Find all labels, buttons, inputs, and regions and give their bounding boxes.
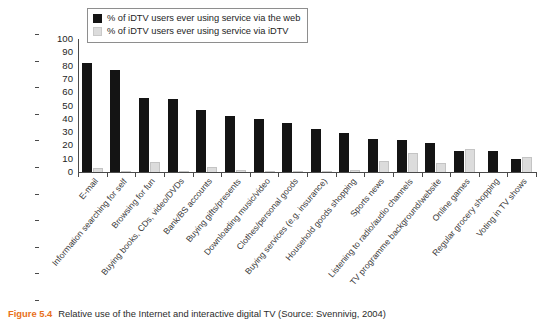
bar-idtv — [322, 171, 332, 172]
bar-idtv — [293, 171, 303, 172]
bar-web — [254, 119, 264, 172]
bar-web — [82, 63, 92, 172]
x-tick-mark — [78, 173, 79, 177]
bar-idtv — [408, 153, 418, 172]
bar-idtv — [465, 149, 475, 172]
bar-group — [507, 157, 536, 172]
legend-swatch-web — [93, 14, 102, 23]
x-tick-mark — [135, 173, 136, 177]
y-tick-label: 40 — [39, 114, 78, 124]
y-tick-mark — [35, 114, 39, 115]
x-tick-label: E-mail — [77, 177, 100, 201]
figure-number: Figure 5.4 — [8, 308, 52, 319]
y-tick-label: 30 — [39, 127, 78, 137]
bar-idtv — [150, 162, 160, 172]
x-tick-mark — [307, 173, 308, 177]
y-tick-label: 90 — [39, 47, 78, 57]
y-tick-mark — [35, 167, 39, 168]
bar-group — [307, 129, 336, 172]
bar-web — [339, 133, 349, 172]
x-tick-mark — [393, 173, 394, 177]
x-tick-mark — [479, 173, 480, 177]
bar-group — [393, 140, 422, 172]
legend-label-web: % of iDTV users ever using service via t… — [107, 13, 300, 24]
x-tick-mark — [336, 173, 337, 177]
figure-container: % of iDTV users ever using service via t… — [0, 0, 554, 321]
y-tick-mark — [35, 34, 39, 35]
y-tick-mark — [35, 140, 39, 141]
bar-web — [311, 129, 321, 172]
x-axis-labels: E-mailInformation searching for selfBrow… — [0, 173, 554, 293]
y-tick-label: 20 — [39, 140, 78, 150]
x-tick-mark — [164, 173, 165, 177]
bar-idtv — [93, 168, 103, 172]
bar-group — [221, 116, 250, 172]
bar-idtv — [236, 170, 246, 172]
bar-web — [282, 123, 292, 172]
y-tick-label: 80 — [39, 61, 78, 71]
bar-idtv — [379, 161, 389, 172]
y-tick-label: 70 — [39, 74, 78, 84]
figure-caption-text: Relative use of the Internet and interac… — [58, 308, 386, 319]
legend-swatch-idtv — [93, 27, 102, 36]
x-tick-mark — [107, 173, 108, 177]
legend-entry-web: % of iDTV users ever using service via t… — [93, 12, 300, 25]
x-tick-mark — [422, 173, 423, 177]
bar-web — [397, 140, 407, 172]
y-tick-label: 10 — [39, 154, 78, 164]
bar-web — [196, 110, 206, 173]
bar-idtv — [350, 170, 360, 172]
bar-group — [479, 151, 508, 172]
x-tick-mark — [278, 173, 279, 177]
y-tick-label: 50 — [39, 101, 78, 111]
x-tick-mark — [221, 173, 222, 177]
x-tick-mark — [250, 173, 251, 177]
x-tick-mark — [450, 173, 451, 177]
bar-web — [110, 70, 120, 172]
bar-idtv — [121, 171, 131, 172]
x-tick-mark — [364, 173, 365, 177]
bar-idtv — [522, 157, 532, 172]
bar-group — [107, 70, 136, 172]
bar-group — [193, 110, 222, 173]
plot-area: 0102030405060708090100 — [78, 39, 536, 172]
bar-web — [225, 116, 235, 172]
bar-idtv — [179, 171, 189, 172]
y-tick-label: 100 — [39, 34, 78, 44]
bar-group — [422, 143, 451, 172]
bar-web — [425, 143, 435, 172]
legend-label-idtv: % of iDTV users ever using service via i… — [107, 26, 289, 37]
bar-idtv — [436, 163, 446, 172]
bar-idtv — [207, 167, 217, 172]
y-tick-mark — [35, 87, 39, 88]
chart-legend: % of iDTV users ever using service via t… — [87, 8, 308, 43]
bar-group — [364, 139, 393, 172]
legend-entry-idtv: % of iDTV users ever using service via i… — [93, 25, 300, 38]
bar-web — [168, 99, 178, 172]
figure-caption: Figure 5.4Relative use of the Internet a… — [8, 308, 386, 320]
bar-group — [135, 98, 164, 172]
bar-web — [139, 98, 149, 172]
bar-group — [336, 133, 365, 172]
bar-web — [454, 151, 464, 172]
y-tick-mark — [35, 61, 39, 62]
bar-web — [488, 151, 498, 172]
bar-group — [78, 63, 107, 172]
bar-group — [164, 99, 193, 172]
bar-web — [511, 159, 521, 172]
bar-group — [450, 149, 479, 172]
bar-group — [278, 123, 307, 172]
x-tick-mark — [536, 173, 537, 177]
y-tick-mark — [35, 300, 39, 301]
bar-group — [250, 119, 279, 172]
x-tick-mark — [507, 173, 508, 177]
y-tick-label: 60 — [39, 87, 78, 97]
bar-idtv — [265, 171, 275, 172]
bar-web — [368, 139, 378, 172]
x-tick-mark — [193, 173, 194, 177]
